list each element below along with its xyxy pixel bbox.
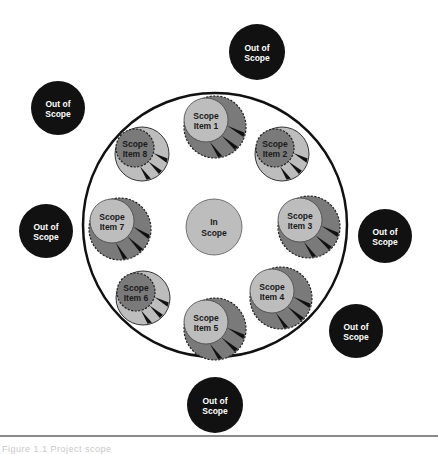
scope-item-label-line2: Item 2: [263, 149, 288, 159]
in-scope-label-line2: Scope: [201, 228, 227, 238]
out-of-scope-label-line2: Scope: [343, 332, 369, 342]
in-scope-circle: [186, 199, 242, 255]
out-of-scope-left: Out ofScope: [19, 204, 73, 258]
out-of-scope-bottom: Out ofScope: [187, 377, 243, 433]
out-of-scope-label-line1: Out of: [244, 43, 269, 53]
scope-item-label-line2: Item 1: [194, 121, 219, 131]
out-of-scope-label-line2: Scope: [45, 109, 71, 119]
scope-item-3: ScopeItem 3: [278, 196, 340, 258]
out-of-scope-upper-left: Out ofScope: [31, 81, 85, 135]
out-of-scope-lower-right: Out ofScope: [329, 304, 383, 358]
scope-item-label-line1: Scope: [262, 139, 288, 149]
in-scope-label-line1: In: [210, 217, 218, 227]
figure-caption: Figure 1.1 Project scope: [2, 444, 112, 454]
scope-item-label-line2: Item 4: [260, 292, 285, 302]
scope-item-7: ScopeItem 7: [89, 198, 151, 260]
scope-item-label-line2: Item 6: [124, 293, 149, 303]
scope-item-label-line1: Scope: [193, 111, 219, 121]
scope-item-label-line1: Scope: [287, 211, 313, 221]
out-of-scope-right: Out ofScope: [358, 209, 412, 263]
out-of-scope-label-line1: Out of: [45, 99, 70, 109]
out-of-scope-label-line1: Out of: [202, 396, 227, 406]
scope-item-8: ScopeItem 8: [115, 127, 169, 181]
scope-item-label-line2: Item 3: [288, 221, 313, 231]
out-of-scope-label-line1: Out of: [33, 222, 58, 232]
out-of-scope-label-line2: Scope: [33, 232, 59, 242]
scope-item-label-line2: Item 7: [100, 222, 125, 232]
scope-item-label-line2: Item 8: [123, 149, 148, 159]
out-of-scope-label-line2: Scope: [244, 53, 270, 63]
out-of-scope-label-line1: Out of: [343, 322, 368, 332]
scope-item-label-line2: Item 5: [194, 323, 219, 333]
scope-item-4: ScopeItem 4: [250, 267, 312, 329]
scope-item-label-line1: Scope: [99, 212, 125, 222]
out-of-scope-label-line1: Out of: [372, 227, 397, 237]
scope-item-label-line1: Scope: [122, 139, 148, 149]
caption-divider: [0, 435, 438, 437]
scope-item-label-line1: Scope: [123, 283, 149, 293]
in-scope-node: In Scope: [186, 199, 242, 255]
scope-item-5: ScopeItem 5: [184, 298, 246, 360]
scope-item-6: ScopeItem 6: [116, 271, 170, 325]
out-of-scope-label-line2: Scope: [372, 237, 398, 247]
scope-item-label-line1: Scope: [259, 282, 285, 292]
scope-diagram: ScopeItem 1ScopeItem 2ScopeItem 3ScopeIt…: [0, 0, 438, 454]
scope-item-1: ScopeItem 1: [184, 96, 246, 158]
out-of-scope-top: Out ofScope: [229, 24, 285, 80]
scope-item-2: ScopeItem 2: [255, 127, 309, 181]
out-of-scope-label-line2: Scope: [202, 406, 228, 416]
scope-item-label-line1: Scope: [193, 313, 219, 323]
